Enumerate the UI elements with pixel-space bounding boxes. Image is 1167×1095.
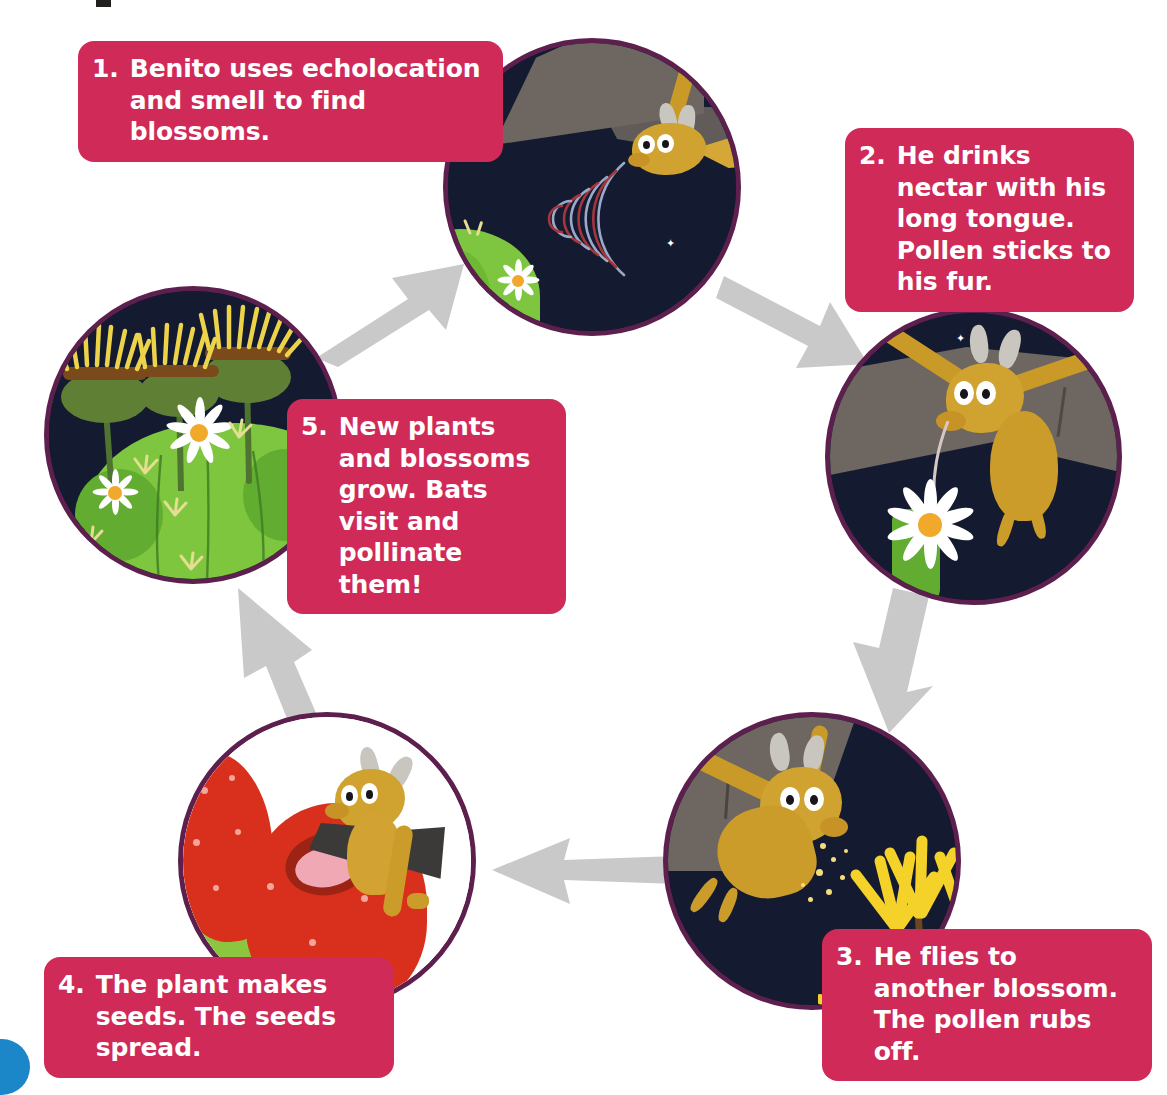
bat-eye-left: [638, 135, 655, 154]
step-5-text: New plants and blossoms grow. Bats visit…: [339, 411, 548, 600]
bat-snout: [325, 803, 349, 819]
step-2-number: 2.: [859, 140, 886, 172]
bat-foot: [407, 893, 429, 909]
bat-body: [990, 411, 1058, 521]
step-4-number: 4.: [58, 969, 85, 1001]
white-blossom: [496, 259, 540, 303]
step-1-callout[interactable]: 1. Benito uses echolocation and smell to…: [78, 41, 503, 162]
step-3-callout[interactable]: 3. He flies to another blossom. The poll…: [822, 929, 1152, 1081]
step-4-text: The plant makes seeds. The seeds spread.: [96, 969, 376, 1064]
step-3-text: He flies to another blossom. The pollen …: [874, 941, 1134, 1067]
step-5-number: 5.: [301, 411, 328, 443]
bat-benito: [626, 105, 736, 220]
arrow-step3-to-step4: [492, 834, 677, 904]
bat-benito: [323, 741, 471, 921]
step-2-illustration: ✦: [825, 308, 1122, 605]
page-corner-dot: [0, 1039, 30, 1095]
page-top-mark: [96, 0, 111, 7]
step-2-callout[interactable]: 2. He drinks nectar with his long tongue…: [845, 128, 1134, 312]
step-5-callout[interactable]: 5. New plants and blossoms grow. Bats vi…: [287, 399, 566, 614]
scene-bat-drinking-nectar: ✦: [830, 313, 1117, 600]
bat-eye-right: [657, 134, 674, 153]
step-4-callout[interactable]: 4. The plant makes seeds. The seeds spre…: [44, 957, 394, 1078]
bat-eye-right: [361, 783, 378, 804]
white-blossom: [882, 477, 978, 573]
bat-eye-left: [341, 785, 358, 806]
step-1-number: 1.: [92, 53, 119, 85]
bat-eye-right: [976, 381, 996, 405]
step-2-text: He drinks nectar with his long tongue. P…: [897, 140, 1116, 298]
arrow-step2-to-step3: [845, 588, 955, 733]
step-3-number: 3.: [836, 941, 863, 973]
step-1-text: Benito uses echolocation and smell to fi…: [130, 53, 485, 148]
bat-eye-left: [954, 381, 974, 405]
star-icon: ✦: [666, 238, 675, 249]
